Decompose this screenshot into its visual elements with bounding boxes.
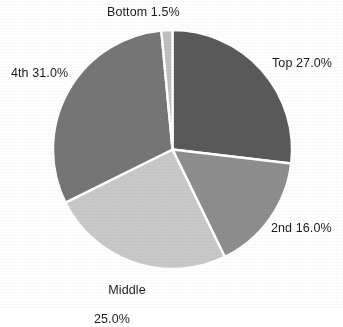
pie-label-top: Top 27.0% <box>272 56 332 71</box>
pie-slice-group <box>53 30 292 269</box>
pie-label-bottom: Bottom 1.5% <box>107 5 180 20</box>
pie-label-second: 2nd 16.0% <box>271 221 332 236</box>
pie-label-middle: Middle 25.0% <box>94 268 146 327</box>
pie-label-fourth: 4th 31.0% <box>11 66 68 81</box>
pie-slice-top <box>173 30 293 163</box>
pie-label-middle-value: 25.0% <box>94 312 146 327</box>
pie-label-middle-name: Middle <box>108 283 145 297</box>
